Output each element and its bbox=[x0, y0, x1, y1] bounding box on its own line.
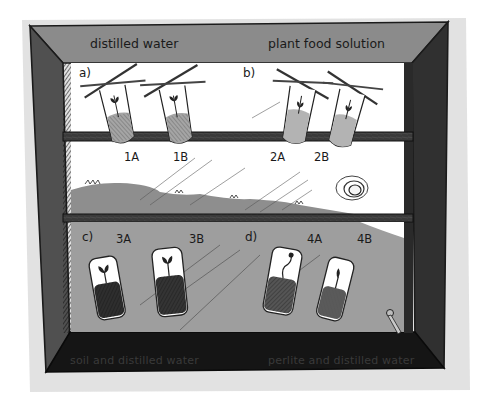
tube-label-1A: 1A bbox=[124, 150, 139, 164]
section-label-a: a) bbox=[79, 66, 91, 80]
section-label-d: d) bbox=[245, 230, 257, 244]
frame-right bbox=[412, 22, 448, 368]
middle-rail bbox=[63, 214, 413, 222]
tube-label-1B: 1B bbox=[173, 150, 188, 164]
tube-label-2A: 2A bbox=[270, 150, 285, 164]
tube-label-3A: 3A bbox=[116, 232, 131, 246]
label-plant-food-solution: plant food solution bbox=[268, 36, 385, 51]
tube-label-3B: 3B bbox=[189, 232, 204, 246]
tube-label-4B: 4B bbox=[357, 232, 372, 246]
section-label-c: c) bbox=[82, 230, 93, 244]
experiment-illustration bbox=[0, 0, 483, 403]
label-distilled-water: distilled water bbox=[90, 36, 178, 51]
label-perlite-and-distilled-water: perlite and distilled water bbox=[268, 354, 414, 367]
tube-3B bbox=[151, 247, 188, 318]
label-soil-and-distilled-water: soil and distilled water bbox=[70, 354, 199, 367]
section-label-b: b) bbox=[243, 66, 255, 80]
tube-label-2B: 2B bbox=[314, 150, 329, 164]
tube-label-4A: 4A bbox=[307, 232, 322, 246]
